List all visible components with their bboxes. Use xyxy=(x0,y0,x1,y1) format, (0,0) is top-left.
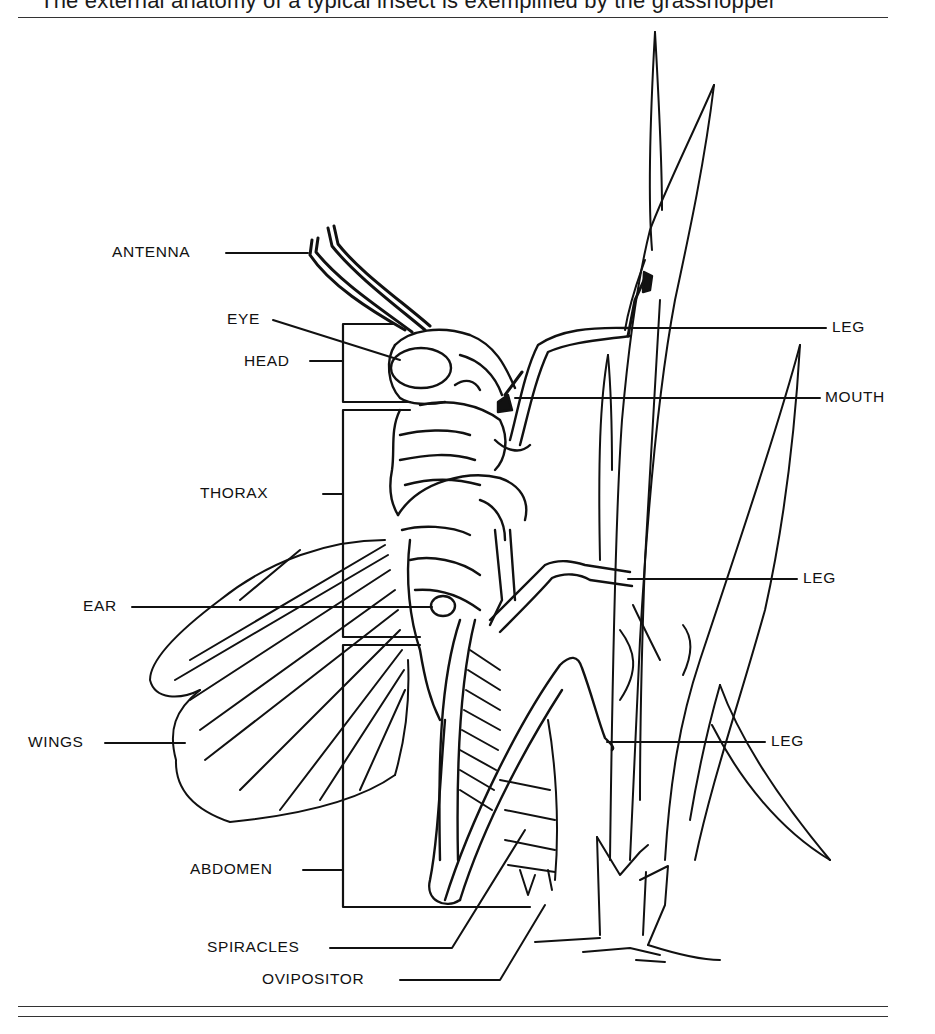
thorax xyxy=(390,402,526,720)
label-leg-hind: LEG xyxy=(771,732,804,750)
label-ovipositor: OVIPOSITOR xyxy=(262,970,364,988)
middle-leg xyxy=(490,530,632,632)
label-mouth: MOUTH xyxy=(825,388,885,406)
label-head: HEAD xyxy=(244,352,289,370)
label-wings: WINGS xyxy=(28,733,84,751)
label-ear: EAR xyxy=(83,597,117,615)
label-leg-middle: LEG xyxy=(803,569,836,587)
hind-leg xyxy=(429,620,613,904)
label-leg-front: LEG xyxy=(832,318,865,336)
grass-blades xyxy=(535,32,830,962)
antennae xyxy=(310,226,430,332)
label-abdomen: ABDOMEN xyxy=(190,860,273,878)
head xyxy=(389,330,522,412)
wing xyxy=(150,540,408,822)
label-eye: EYE xyxy=(227,310,260,328)
grasshopper-diagram xyxy=(0,0,935,1034)
ear-shape xyxy=(431,596,455,616)
label-antenna: ANTENNA xyxy=(112,243,190,261)
label-thorax: THORAX xyxy=(200,484,268,502)
label-spiracles: SPIRACLES xyxy=(207,938,299,956)
